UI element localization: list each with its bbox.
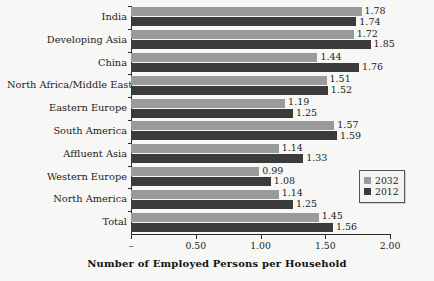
bar-group: 1.781.74 xyxy=(131,6,390,29)
bar-value-label: 1.25 xyxy=(296,108,317,118)
bar-value-label: 1.72 xyxy=(357,29,378,39)
bar-value-label: 1.14 xyxy=(282,188,303,198)
bar-2012[interactable] xyxy=(131,200,293,209)
bar-group: 1.441.76 xyxy=(131,52,390,75)
bar-value-label: 1.57 xyxy=(337,120,358,130)
bar-2012[interactable] xyxy=(131,131,337,140)
bar-value-label: 1.51 xyxy=(330,74,351,84)
legend-swatch-2012-icon xyxy=(364,188,371,195)
bar-2032[interactable] xyxy=(131,99,285,108)
bar-group: 1.721.85 xyxy=(131,29,390,52)
legend-item-2012[interactable]: 2012 xyxy=(364,187,399,196)
bar-2032[interactable] xyxy=(131,121,334,130)
category-axis-labels: IndiaDeveloping AsiaChinaNorth Africa/Mi… xyxy=(5,6,127,234)
bar-2012[interactable] xyxy=(131,40,371,49)
bar-value-label: 1.78 xyxy=(365,6,386,16)
legend-label-2032: 2032 xyxy=(375,176,399,185)
category-label: Developing Asia xyxy=(7,35,127,45)
x-axis-tick xyxy=(390,235,391,239)
bar-group: 1.511.52 xyxy=(131,74,390,97)
x-axis-title: Number of Employed Persons per Household xyxy=(0,258,434,269)
bar-2032[interactable] xyxy=(131,167,259,176)
category-label: Total xyxy=(7,217,127,227)
bar-2032[interactable] xyxy=(131,213,319,222)
bar-value-label: 1.33 xyxy=(306,153,327,163)
bar-value-label: 1.14 xyxy=(282,143,303,153)
bar-group: 1.191.25 xyxy=(131,97,390,120)
bar-group: 0.991.08 xyxy=(131,166,390,189)
bar-2032[interactable] xyxy=(131,190,279,199)
bar-group: 1.571.59 xyxy=(131,120,390,143)
x-axis-tick-label: 1.50 xyxy=(305,241,345,251)
x-axis-tick-label: 1.00 xyxy=(241,241,281,251)
bar-2032[interactable] xyxy=(131,76,327,85)
category-label: North America xyxy=(7,194,127,204)
bar-value-label: 1.76 xyxy=(362,62,383,72)
bar-value-label: 1.08 xyxy=(274,176,295,186)
bar-2032[interactable] xyxy=(131,30,354,39)
bar-value-label: 1.59 xyxy=(340,131,361,141)
bar-2012[interactable] xyxy=(131,86,328,95)
bar-value-label: 1.45 xyxy=(322,211,343,221)
chart-legend: 2032 2012 xyxy=(359,170,405,203)
bar-2012[interactable] xyxy=(131,177,271,186)
bar-2032[interactable] xyxy=(131,144,279,153)
bar-group: 1.141.33 xyxy=(131,143,390,166)
bar-2032[interactable] xyxy=(131,7,362,16)
category-label: Eastern Europe xyxy=(7,103,127,113)
category-label: Affluent Asia xyxy=(7,149,127,159)
legend-item-2032[interactable]: 2032 xyxy=(364,176,399,185)
bar-2012[interactable] xyxy=(131,154,303,163)
category-label: North Africa/Middle East xyxy=(7,80,127,90)
bar-chart: IndiaDeveloping AsiaChinaNorth Africa/Mi… xyxy=(0,0,434,281)
bar-value-label: 1.25 xyxy=(296,199,317,209)
bar-value-label: 1.52 xyxy=(331,85,352,95)
x-axis-tick-label: 2.00 xyxy=(370,241,410,251)
bar-value-label: 1.19 xyxy=(288,97,309,107)
category-label: China xyxy=(7,58,127,68)
x-axis-tick-label: – xyxy=(111,241,151,251)
bar-group: 1.141.25 xyxy=(131,188,390,211)
x-axis-tick-label: 0.50 xyxy=(176,241,216,251)
x-axis-tick xyxy=(131,235,132,239)
bar-value-label: 1.85 xyxy=(374,39,395,49)
bar-2012[interactable] xyxy=(131,63,359,72)
category-label: South America xyxy=(7,126,127,136)
legend-label-2012: 2012 xyxy=(375,187,399,196)
bar-value-label: 1.56 xyxy=(336,222,357,232)
bar-value-label: 1.44 xyxy=(320,52,341,62)
category-label: India xyxy=(7,12,127,22)
bar-value-label: 0.99 xyxy=(262,166,283,176)
bar-2012[interactable] xyxy=(131,223,333,232)
x-axis-tick xyxy=(261,235,262,239)
plot-area: 1.781.741.721.851.441.761.511.521.191.25… xyxy=(131,6,390,234)
bar-group: 1.451.56 xyxy=(131,211,390,234)
bar-2012[interactable] xyxy=(131,109,293,118)
bar-2012[interactable] xyxy=(131,17,356,26)
x-axis-tick xyxy=(196,235,197,239)
legend-swatch-2032-icon xyxy=(364,177,371,184)
x-axis-tick xyxy=(325,235,326,239)
bar-value-label: 1.74 xyxy=(359,17,380,27)
category-label: Western Europe xyxy=(7,172,127,182)
bar-2032[interactable] xyxy=(131,53,317,62)
